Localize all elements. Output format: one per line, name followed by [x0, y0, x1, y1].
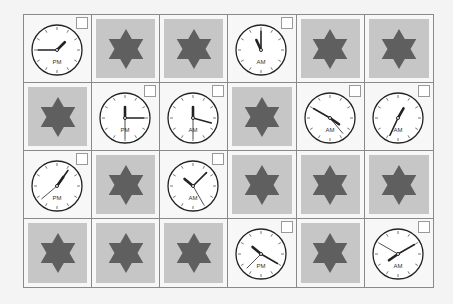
clock-icon: PM	[98, 91, 152, 145]
star-tile[interactable]	[164, 19, 223, 78]
clock-icon: AM	[234, 23, 288, 77]
grid-cell: AM	[228, 15, 296, 83]
puzzle-grid: PMAMPMAMAMAMPMAMPMAM	[23, 14, 434, 288]
star-icon	[36, 231, 80, 275]
grid-cell[interactable]	[365, 15, 433, 83]
grid-cell: AM	[297, 83, 365, 151]
grid-cell[interactable]	[365, 151, 433, 219]
grid-cell: AM	[160, 151, 228, 219]
grid-cell[interactable]	[228, 83, 296, 151]
grid-cell: AM	[365, 83, 433, 151]
star-icon	[308, 27, 352, 71]
star-tile[interactable]	[232, 87, 291, 146]
star-icon	[172, 231, 216, 275]
grid-cell: AM	[365, 219, 433, 287]
star-icon	[104, 163, 148, 207]
grid-cell[interactable]	[92, 151, 160, 219]
clock-icon: PM	[30, 23, 84, 77]
select-checkbox[interactable]	[76, 17, 88, 29]
star-icon	[377, 27, 421, 71]
select-checkbox[interactable]	[212, 153, 224, 165]
select-checkbox[interactable]	[76, 153, 88, 165]
clock-icon: PM	[234, 227, 288, 281]
star-icon	[172, 27, 216, 71]
period-label: PM	[53, 59, 62, 65]
grid-cell[interactable]	[228, 151, 296, 219]
select-checkbox[interactable]	[349, 85, 361, 97]
star-icon	[308, 163, 352, 207]
grid-cell[interactable]	[92, 15, 160, 83]
star-tile[interactable]	[96, 223, 155, 283]
clock-icon: PM	[30, 159, 84, 213]
star-tile[interactable]	[301, 155, 360, 214]
select-checkbox[interactable]	[281, 17, 293, 29]
period-label: AM	[393, 127, 402, 133]
grid-cell: PM	[92, 83, 160, 151]
grid-cell[interactable]	[160, 15, 228, 83]
period-label: PM	[53, 195, 62, 201]
star-tile[interactable]	[232, 155, 291, 214]
select-checkbox[interactable]	[418, 85, 430, 97]
star-tile[interactable]	[369, 19, 429, 78]
star-tile[interactable]	[96, 155, 155, 214]
period-label: AM	[189, 195, 198, 201]
star-icon	[240, 163, 284, 207]
star-icon	[104, 231, 148, 275]
grid-cell[interactable]	[24, 83, 92, 151]
grid-cell[interactable]	[297, 15, 365, 83]
grid-cell[interactable]	[24, 219, 92, 287]
period-label: AM	[325, 127, 334, 133]
select-checkbox[interactable]	[212, 85, 224, 97]
star-tile[interactable]	[164, 223, 223, 283]
star-icon	[240, 95, 284, 139]
star-tile[interactable]	[28, 87, 87, 146]
clock-icon: AM	[371, 227, 425, 281]
star-tile[interactable]	[301, 19, 360, 78]
grid-cell[interactable]	[92, 219, 160, 287]
grid-cell: AM	[160, 83, 228, 151]
clock-icon: AM	[303, 91, 357, 145]
star-icon	[377, 163, 421, 207]
star-tile[interactable]	[369, 155, 429, 214]
grid-cell: PM	[24, 151, 92, 219]
select-checkbox[interactable]	[281, 221, 293, 233]
select-checkbox[interactable]	[144, 85, 156, 97]
star-icon	[308, 231, 352, 275]
grid-cell[interactable]	[297, 219, 365, 287]
clock-icon: AM	[166, 159, 220, 213]
grid-cell: PM	[228, 219, 296, 287]
select-checkbox[interactable]	[418, 221, 430, 233]
star-tile[interactable]	[28, 223, 87, 283]
grid-cell: PM	[24, 15, 92, 83]
grid-cell[interactable]	[297, 151, 365, 219]
clock-icon: AM	[166, 91, 220, 145]
period-label: AM	[393, 263, 402, 269]
star-icon	[36, 95, 80, 139]
period-label: PM	[257, 263, 266, 269]
star-tile[interactable]	[301, 223, 360, 283]
star-icon	[104, 27, 148, 71]
period-label: AM	[257, 59, 266, 65]
grid-cell[interactable]	[160, 219, 228, 287]
clock-icon: AM	[371, 91, 425, 145]
star-tile[interactable]	[96, 19, 155, 78]
